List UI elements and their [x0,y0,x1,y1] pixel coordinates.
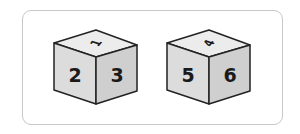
die-1: 1 2 3 [54,30,137,104]
dice-figure: 1 2 3 4 5 6 [0,0,300,134]
die-2-left-number: 5 [181,64,194,86]
die-1-right-number: 3 [110,64,123,86]
die-2-right-number: 6 [223,64,236,86]
die-1-left-number: 2 [68,64,81,86]
die-2: 4 5 6 [167,30,250,104]
